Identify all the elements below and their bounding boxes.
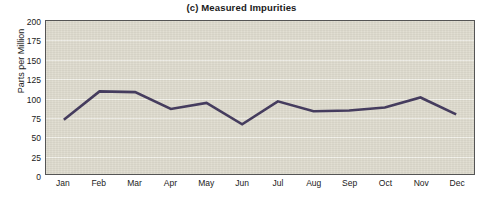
y-tick-label: 150 bbox=[14, 57, 41, 66]
x-tick-label: Dec bbox=[437, 179, 477, 188]
y-tick-label: 50 bbox=[14, 134, 41, 143]
y-tick-label: 175 bbox=[14, 37, 41, 46]
series-line-measured-impurities bbox=[46, 21, 474, 174]
x-tick-label: Nov bbox=[401, 179, 441, 188]
chart-figure: (c) Measured Impurities Parts per Millio… bbox=[0, 0, 483, 200]
y-axis-tick-labels: 2001751501251007550250 bbox=[14, 21, 41, 174]
x-tick-label: Oct bbox=[365, 179, 405, 188]
y-tick-label: 75 bbox=[14, 115, 41, 124]
y-tick-label: 100 bbox=[14, 95, 41, 104]
x-tick-label: Jan bbox=[43, 179, 83, 188]
x-tick-label: May bbox=[186, 179, 226, 188]
y-tick-label: 0 bbox=[14, 173, 41, 182]
y-tick-label: 200 bbox=[14, 18, 41, 27]
y-tick-label: 125 bbox=[14, 76, 41, 85]
plot-area bbox=[45, 20, 475, 175]
x-axis-tick-labels: JanFebMarAprMayJunJulAugSepOctNovDec bbox=[45, 179, 475, 195]
x-tick-label: Jun bbox=[222, 179, 262, 188]
x-tick-label: Aug bbox=[294, 179, 334, 188]
x-tick-label: Apr bbox=[150, 179, 190, 188]
x-tick-label: Sep bbox=[330, 179, 370, 188]
x-tick-label: Jul bbox=[258, 179, 298, 188]
x-tick-label: Mar bbox=[115, 179, 155, 188]
x-tick-label: Feb bbox=[79, 179, 119, 188]
y-tick-label: 25 bbox=[14, 153, 41, 162]
chart-title: (c) Measured Impurities bbox=[0, 2, 483, 13]
